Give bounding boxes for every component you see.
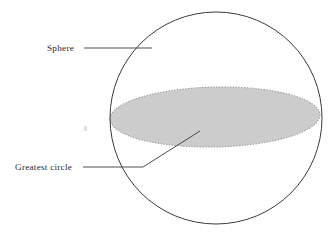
diagram-canvas: Sphere Greatest circle [0,0,336,233]
greatest-circle-ellipse [109,85,320,149]
sphere-diagram-figure: Sphere Greatest circle [0,0,336,233]
greatest-circle-label: Greatest circle [15,162,72,172]
faint-speck-artifact [84,126,87,131]
sphere-label: Sphere [47,43,74,53]
